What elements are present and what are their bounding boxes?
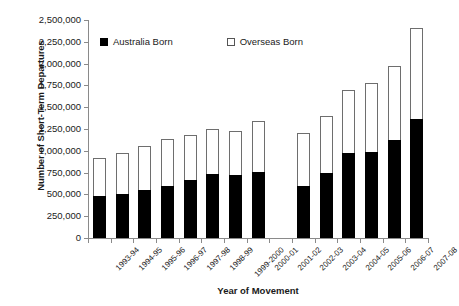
bar-segment-australia-born <box>410 119 423 238</box>
x-axis-category-label: 2002-03 <box>319 246 345 272</box>
y-axis-tick-label: 500,000 <box>47 190 88 200</box>
y-axis-tick-label: 2,250,000 <box>39 37 88 47</box>
x-axis-category-label: 1997-98 <box>206 246 232 272</box>
bar-segment-australia-born <box>365 152 378 238</box>
x-axis-line <box>88 238 429 239</box>
x-axis-tick-mark <box>428 238 429 243</box>
bar-column <box>116 153 129 238</box>
bar-column <box>184 135 197 238</box>
x-axis-tick-mark <box>269 238 270 243</box>
x-axis-category-label: 1993-94 <box>115 246 141 272</box>
bar-segment-australia-born <box>252 172 265 238</box>
x-axis-tick-mark <box>179 238 180 243</box>
x-axis-category-label: 2001-02 <box>296 246 322 272</box>
y-axis-tick-label: 1,250,000 <box>39 124 88 134</box>
y-axis-tick-mark <box>84 173 88 174</box>
x-axis-tick-mark <box>111 238 112 243</box>
bar-column <box>252 121 265 238</box>
x-axis-tick-mark <box>247 238 248 243</box>
x-axis-category-label: 2005-06 <box>387 246 413 272</box>
x-axis-tick-mark <box>156 238 157 243</box>
bar-segment-australia-born <box>206 174 219 238</box>
bar-column <box>388 66 401 238</box>
x-axis-title: Year of Movement <box>88 285 428 296</box>
y-axis-tick-mark <box>84 151 88 152</box>
y-axis-tick-mark <box>84 129 88 130</box>
y-axis-tick-mark <box>84 64 88 65</box>
y-axis-tick-mark <box>84 20 88 21</box>
bar-segment-australia-born <box>138 190 151 238</box>
legend-label-overseas-born: Overseas Born <box>240 36 303 47</box>
y-axis-tick-label: 1,000,000 <box>39 146 88 156</box>
bar-segment-australia-born <box>320 173 333 238</box>
bar-segment-australia-born <box>388 140 401 238</box>
y-axis-tick-mark <box>84 85 88 86</box>
legend-entry-australia-born: Australia Born <box>100 36 173 47</box>
y-axis-tick-mark <box>84 194 88 195</box>
hollow-square-icon <box>227 38 235 46</box>
bar-column <box>138 146 151 238</box>
bar-column <box>161 139 174 238</box>
bar-segment-australia-born <box>116 194 129 238</box>
x-axis-category-label: 2004-05 <box>364 246 390 272</box>
y-axis-title: Number of Short-Term Departures <box>35 21 46 211</box>
bar-segment-australia-born <box>161 186 174 238</box>
x-axis-tick-mark <box>292 238 293 243</box>
bar-column <box>342 90 355 238</box>
x-axis-category-label: 2007-08 <box>432 246 458 272</box>
x-axis-tick-mark <box>133 238 134 243</box>
bar-segment-australia-born <box>342 153 355 238</box>
x-axis-tick-mark <box>224 238 225 243</box>
bar-segment-australia-born <box>93 196 106 238</box>
y-axis-tick-label: 2,000,000 <box>39 59 88 69</box>
y-axis-tick-mark <box>84 107 88 108</box>
y-axis-tick-label: 2,500,000 <box>39 15 88 25</box>
bar-column <box>93 158 106 238</box>
y-axis-tick-label: 1,750,000 <box>39 81 88 91</box>
filled-square-icon <box>100 38 108 46</box>
chart-legend: Australia Born Overseas Born <box>100 36 303 47</box>
bar-segment-australia-born <box>297 186 310 238</box>
x-axis-tick-mark <box>201 238 202 243</box>
bar-column <box>410 28 423 238</box>
y-axis-tick-label: 1,500,000 <box>39 102 88 112</box>
x-axis-tick-mark <box>383 238 384 243</box>
legend-entry-overseas-born: Overseas Born <box>227 36 303 47</box>
bar-column <box>297 133 310 238</box>
x-axis-category-label: 2006-07 <box>410 246 436 272</box>
legend-label-australia-born: Australia Born <box>113 36 173 47</box>
x-axis-tick-mark <box>405 238 406 243</box>
x-axis-category-label: 1998-99 <box>228 246 254 272</box>
bar-column <box>229 131 242 238</box>
x-axis-tick-mark <box>88 238 89 243</box>
x-axis-category-label: 1996-97 <box>183 246 209 272</box>
bar-column <box>206 129 219 238</box>
x-axis-category-label: 1994-95 <box>138 246 164 272</box>
y-axis-tick-mark <box>84 216 88 217</box>
y-axis-tick-label: 250,000 <box>47 211 88 221</box>
x-axis-category-label: 2003-04 <box>342 246 368 272</box>
bar-segment-australia-born <box>184 180 197 238</box>
y-axis-tick-mark <box>84 42 88 43</box>
bar-column <box>320 116 333 238</box>
x-axis-tick-mark <box>360 238 361 243</box>
x-axis-tick-mark <box>315 238 316 243</box>
x-axis-category-label: 1995-96 <box>160 246 186 272</box>
x-axis-tick-mark <box>337 238 338 243</box>
plot-area: 2,500,0002,250,0002,000,0001,750,0001,50… <box>88 20 428 238</box>
bar-segment-australia-born <box>229 175 242 238</box>
bar-column <box>365 83 378 238</box>
y-axis-tick-label: 750,000 <box>47 168 88 178</box>
